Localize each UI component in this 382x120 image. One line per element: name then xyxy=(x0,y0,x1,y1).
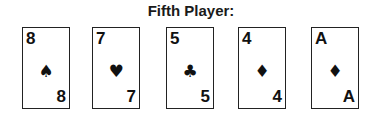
card-ace-diamonds: A ♦ A xyxy=(311,27,359,109)
club-icon: ♣ xyxy=(167,62,213,80)
card-5-clubs: 5 ♣ 5 xyxy=(166,27,214,109)
card-rank-top: 4 xyxy=(242,30,251,48)
diamond-icon: ♦ xyxy=(239,62,285,80)
card-rank-bottom: A xyxy=(343,88,355,106)
heart-icon: ♥ xyxy=(93,62,139,80)
diamond-icon: ♦ xyxy=(312,62,358,80)
card-7-hearts: 7 ♥ 7 xyxy=(92,27,140,109)
card-rank-bottom: 5 xyxy=(201,88,210,106)
card-rank-top: 7 xyxy=(96,30,105,48)
card-rank-bottom: 8 xyxy=(57,88,66,106)
player-title: Fifth Player: xyxy=(0,2,382,19)
card-rank-top: 5 xyxy=(170,30,179,48)
card-4-diamonds: 4 ♦ 4 xyxy=(238,27,286,109)
card-8-spades: 8 ♠ 8 xyxy=(22,27,70,109)
card-rank-top: 8 xyxy=(26,30,35,48)
card-rank-top: A xyxy=(315,30,327,48)
card-rank-bottom: 4 xyxy=(273,88,282,106)
spade-icon: ♠ xyxy=(23,62,69,80)
card-rank-bottom: 7 xyxy=(127,88,136,106)
